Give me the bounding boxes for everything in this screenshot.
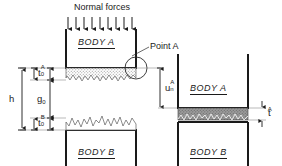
- dimension-g0-label: g0: [37, 94, 46, 104]
- left-body-a-label: BODY A: [78, 38, 115, 49]
- right-body-b-outline: [178, 122, 248, 166]
- left-body-b-label: BODY B: [78, 148, 115, 159]
- right-body-a-label: BODY A: [190, 84, 227, 95]
- dimension-tA-label: tA: [268, 108, 275, 118]
- unA-subscript: n: [170, 86, 173, 92]
- point-a-label: Point A: [150, 42, 179, 51]
- t0B-subscript: 0: [41, 121, 44, 127]
- contact-mechanics-figure: Normal forces BODY A Point A BODY B h tA…: [0, 0, 282, 166]
- t0A-superscript: A: [41, 64, 45, 70]
- t0A-subscript: 0: [41, 71, 44, 77]
- dimension-t0B-label: tB0: [38, 117, 45, 128]
- dimension-unA: [157, 68, 163, 107]
- point-a-leader-line: [132, 47, 149, 56]
- h-symbol: h: [9, 93, 14, 104]
- dimension-t0A-label: tA0: [38, 67, 45, 78]
- right-body-a-outline: [178, 54, 248, 108]
- normal-force-arrows: [68, 17, 132, 29]
- left-body-b-asperity-layer: [66, 116, 136, 130]
- dimension-unA-label: uAn: [165, 82, 174, 93]
- figure-drawing: [0, 0, 282, 166]
- dimension-h-label: h: [9, 94, 14, 104]
- dimension-h: [18, 68, 26, 130]
- tA-superscript: A: [268, 106, 272, 112]
- right-body-b-label: BODY B: [190, 148, 227, 159]
- t0B-superscript: B: [41, 114, 45, 120]
- right-contact-layer: [178, 108, 248, 120]
- normal-forces-label: Normal forces: [74, 3, 130, 12]
- g0-subscript: 0: [42, 99, 45, 105]
- unA-superscript: A: [170, 79, 174, 85]
